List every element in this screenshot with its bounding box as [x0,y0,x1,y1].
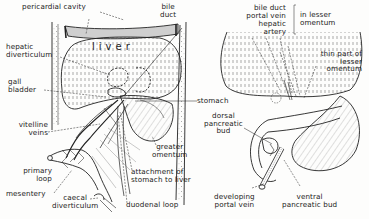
gall-bladder-label: gall bladder [8,78,36,93]
developing-portal-vein-label: developing portal vein [214,193,255,208]
hepatic-diverticulum-label: hepatic diverticulum [6,43,52,58]
embryology-diagram: liver pericardial cavity bile duct hepat… [0,0,369,219]
attachment-of-stomach-to-liver-label: attachment of stomach to liver [131,168,191,183]
liver-organ-label: liver [92,41,134,52]
stomach-label: stomach [197,97,229,105]
ventral-pancreatic-bud-label: ventral pancreatic bud [282,193,337,208]
bile-duct-label-left: bile duct [160,3,176,18]
pericardial-cavity-label: pericardial cavity [22,3,86,11]
diagram-artwork [0,0,369,219]
in-lesser-omentum-label: in lesser omentum [300,11,335,26]
mesentery-label: mesentery [6,190,46,198]
thin-part-lesser-omentum-label: thin part of lesser omentum [300,50,362,73]
dorsal-pancreatic-bud-label: dorsal pancreatic bud [204,112,243,135]
greater-omentum-label: greater omentum [152,143,187,158]
vitelline-veins-label: vitelline veins [6,121,48,136]
caecal-diverticulum-label: caecal diverticulum [52,194,98,209]
hepatic-artery-label: hepatic artery [226,20,286,35]
primary-loop-label: primary loop [8,167,52,182]
duodenal-loop-label: duodenal loop [126,201,178,209]
